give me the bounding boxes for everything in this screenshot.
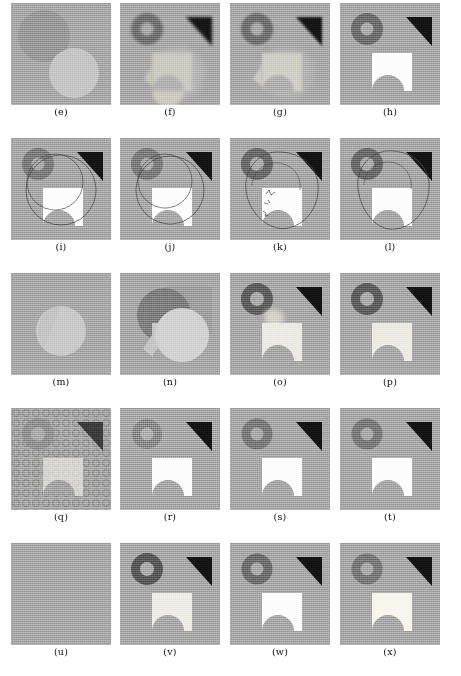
ring-icon: [131, 553, 163, 585]
panel-u: (u): [11, 540, 111, 675]
panel-u-graphic: [11, 543, 111, 645]
panel-m-image: [11, 273, 111, 375]
panel-h-graphic: [340, 3, 440, 105]
notched-square-icon: [262, 323, 302, 361]
panel-x-image: [340, 543, 440, 645]
panel-e: (e): [11, 0, 111, 135]
panel-caption: (t): [340, 511, 440, 522]
panel-caption: (u): [11, 646, 111, 657]
panel-caption: (g): [230, 106, 330, 117]
ring-icon: [351, 283, 383, 315]
panel-o: (o): [230, 270, 330, 405]
notched-square-icon: [262, 53, 302, 91]
panel-v-graphic: [120, 543, 220, 645]
panel-v-image: [120, 543, 220, 645]
panel-f-graphic: [120, 3, 220, 105]
ring-icon: [351, 13, 383, 45]
panel-q-graphic: [11, 408, 111, 510]
notched-square-icon: [372, 188, 412, 226]
light-disc-icon: [49, 48, 99, 98]
figure-row: (m) (n): [0, 270, 461, 405]
panel-g-graphic: [230, 3, 330, 105]
figure-row: (u) (v): [0, 540, 461, 675]
panel-k-image: [230, 138, 330, 240]
panel-g: (g): [230, 0, 330, 135]
panel-p: (p): [340, 270, 440, 405]
panel-j-graphic: [120, 138, 220, 240]
panel-f-image: [120, 3, 220, 105]
panel-x-graphic: [340, 543, 440, 645]
ring-icon: [131, 13, 163, 45]
notched-square-icon: [372, 458, 412, 496]
ring-icon: [352, 419, 383, 450]
panel-caption: (j): [120, 241, 220, 252]
figure-row: (i): [0, 135, 461, 270]
panel-n: (n): [120, 270, 220, 405]
ring-icon: [131, 148, 163, 180]
panel-l-image: [340, 138, 440, 240]
panel-caption: (m): [11, 376, 111, 387]
notched-square-icon: [43, 188, 83, 226]
panel-m-graphic: [11, 273, 111, 375]
panel-caption: (e): [11, 106, 111, 117]
panel-caption: (i): [11, 241, 111, 252]
panel-w-image: [230, 543, 330, 645]
panel-k-graphic: [230, 138, 330, 240]
panel-caption: (v): [120, 646, 220, 657]
panel-r-image: [120, 408, 220, 510]
panel-g-image: [230, 3, 330, 105]
ring-texture-overlay: [11, 408, 111, 510]
figure-grid: (e): [0, 0, 461, 676]
panel-x: (x): [340, 540, 440, 675]
panel-caption: (p): [340, 376, 440, 387]
panel-caption: (s): [230, 511, 330, 522]
panel-u-image: [11, 543, 111, 645]
panel-l-graphic: [340, 138, 440, 240]
panel-caption: (q): [11, 511, 111, 522]
panel-h: (h): [340, 0, 440, 135]
notched-square-icon: [372, 323, 412, 361]
panel-t-graphic: [340, 408, 440, 510]
notched-square-icon: [262, 593, 302, 631]
panel-caption: (h): [340, 106, 440, 117]
ring-icon: [241, 283, 273, 315]
panel-n-graphic: [120, 273, 220, 375]
notched-square-icon: [262, 188, 302, 226]
notched-square-icon: [152, 458, 192, 496]
panel-r-graphic: [120, 408, 220, 510]
figure-row: (q) (r): [0, 405, 461, 540]
panel-caption: (l): [340, 241, 440, 252]
panel-q: (q): [11, 405, 111, 540]
panel-o-image: [230, 273, 330, 375]
panel-j-image: [120, 138, 220, 240]
panel-q-image: [11, 408, 111, 510]
panel-caption: (x): [340, 646, 440, 657]
panel-p-graphic: [340, 273, 440, 375]
panel-s-graphic: [230, 408, 330, 510]
panel-w-graphic: [230, 543, 330, 645]
notched-square-icon: [152, 593, 192, 631]
panel-e-image: [11, 3, 111, 105]
notched-square-icon: [372, 53, 412, 91]
panel-h-image: [340, 3, 440, 105]
ring-icon: [132, 419, 162, 449]
notched-square-icon: [372, 593, 412, 631]
panel-i-image: [11, 138, 111, 240]
panel-o-graphic: [230, 273, 330, 375]
ring-icon: [241, 13, 273, 45]
panel-e-graphic: [11, 3, 111, 105]
panel-caption: (o): [230, 376, 330, 387]
panel-caption: (n): [120, 376, 220, 387]
figure-row: (e): [0, 0, 461, 135]
panel-s: (s): [230, 405, 330, 540]
ring-icon: [242, 419, 273, 450]
panel-t-image: [340, 408, 440, 510]
panel-t: (t): [340, 405, 440, 540]
panel-j: (j): [120, 135, 220, 270]
panel-v: (v): [120, 540, 220, 675]
panel-caption: (k): [230, 241, 330, 252]
ring-icon: [242, 554, 273, 585]
panel-i: (i): [11, 135, 111, 270]
panel-w: (w): [230, 540, 330, 675]
panel-m: (m): [11, 270, 111, 405]
